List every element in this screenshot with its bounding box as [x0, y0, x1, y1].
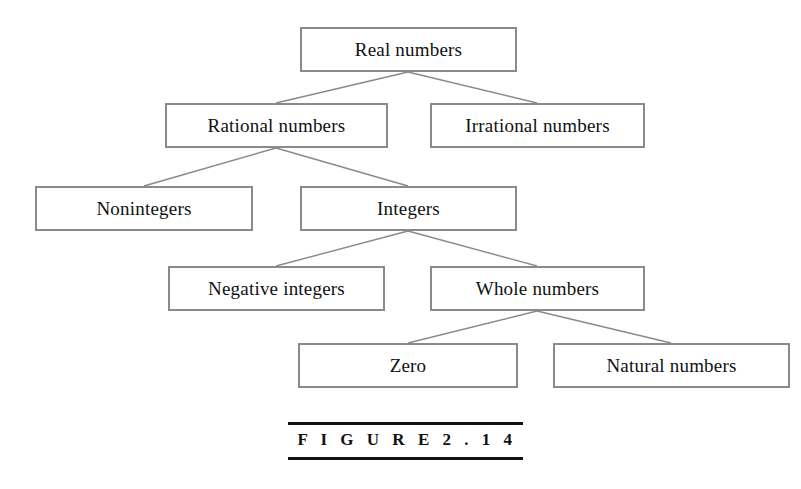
node-label-whole: Whole numbers	[476, 279, 599, 298]
node-whole: Whole numbers	[430, 266, 645, 311]
edge-whole-to-natural	[537, 311, 671, 343]
node-irrational: Irrational numbers	[430, 103, 645, 148]
node-label-integers: Integers	[377, 199, 440, 218]
node-label-irrational: Irrational numbers	[465, 116, 609, 135]
node-label-real: Real numbers	[355, 40, 462, 59]
caption-text: F I G U R E 2 . 1 4	[288, 425, 523, 455]
node-integers: Integers	[300, 186, 517, 231]
figure-caption: F I G U R E 2 . 1 4	[288, 422, 523, 460]
node-label-nonintegers: Nonintegers	[96, 199, 191, 218]
edge-real-to-rational	[276, 72, 408, 103]
edge-whole-to-zero	[408, 311, 537, 343]
node-negative_integers: Negative integers	[168, 266, 385, 311]
edge-integers-to-whole	[408, 231, 537, 266]
edge-rational-to-nonintegers	[144, 148, 276, 186]
node-label-rational: Rational numbers	[208, 116, 346, 135]
node-label-natural: Natural numbers	[606, 356, 736, 375]
edge-integers-to-negative_integers	[276, 231, 408, 266]
node-zero: Zero	[298, 343, 518, 388]
edge-rational-to-integers	[276, 148, 408, 186]
node-natural: Natural numbers	[553, 343, 790, 388]
connector-lines	[0, 0, 801, 489]
node-real: Real numbers	[300, 27, 517, 72]
edge-real-to-irrational	[408, 72, 537, 103]
node-rational: Rational numbers	[165, 103, 388, 148]
node-nonintegers: Nonintegers	[35, 186, 253, 231]
caption-rule-bottom	[288, 457, 523, 460]
node-label-zero: Zero	[390, 356, 427, 375]
figure-container: Real numbersRational numbersIrrational n…	[0, 0, 801, 489]
node-label-negative_integers: Negative integers	[208, 279, 345, 298]
